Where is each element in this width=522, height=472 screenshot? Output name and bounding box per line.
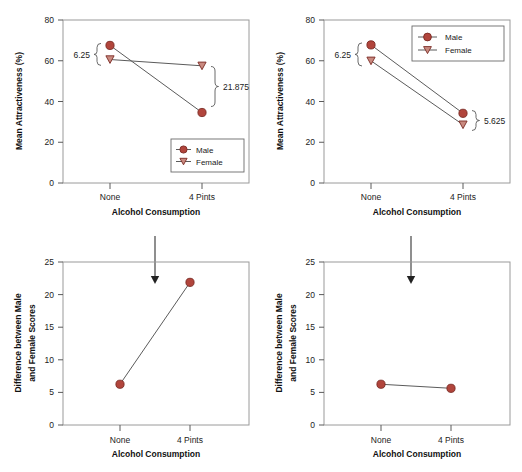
down-arrow-icon [151,236,159,284]
x-tick-label-none: None [361,192,382,202]
y-axis-title-line1: Difference between Male [274,293,284,392]
y-tick-label: 10 [306,355,316,365]
y-tick-label: 0 [49,178,54,188]
y-tick-label: 40 [45,97,55,107]
legend-label-male: Male [445,33,463,42]
x-axis-title: Alcohol Consumption [112,207,200,217]
x-axis-ticks [371,183,463,189]
y-tick-label: 20 [45,137,55,147]
data-point-male-4pints[interactable] [459,109,467,117]
series-line-male [110,45,202,112]
brace-left [355,43,362,66]
x-axis-ticks [381,425,451,431]
annotation-6-25: 6.25 [73,50,90,60]
chart-top-left: 0 20 40 60 80 None 4 Pints Alcohol Consu… [0,0,261,236]
y-axis-ticks [319,20,324,183]
y-tick-label: 0 [310,420,315,430]
legend[interactable]: Male Female [412,26,504,61]
y-axis-title-line2: and Female Scores [288,304,298,382]
series-line-female [110,60,202,66]
y-tick-label: 15 [45,322,55,332]
x-axis-title: Alcohol Consumption [373,207,461,217]
y-axis-title: Mean Attractiveness (%) [14,52,24,150]
y-tick-label: 0 [49,420,54,430]
y-tick-label: 25 [306,257,316,267]
chart-panel-top-left: 0 20 40 60 80 None 4 Pints Alcohol Consu… [0,0,261,236]
down-arrow-icon [407,236,415,284]
data-point-female-4pints[interactable] [459,121,467,129]
y-tick-label: 60 [306,56,316,66]
x-tick-label-none: None [100,192,121,202]
x-tick-label-4-pints: 4 Pints [177,435,203,445]
y-tick-label: 10 [45,355,55,365]
legend[interactable]: Male Female [171,139,244,172]
brace-right [211,67,219,107]
x-axis-ticks [110,183,202,189]
series-line-difference [120,282,190,384]
plot-frame [324,262,510,425]
y-axis-ticks [58,262,63,425]
series-line-female [371,61,463,125]
y-tick-label: 80 [45,15,55,25]
x-tick-label-4-pints: 4 Pints [438,435,464,445]
y-tick-label: 25 [45,257,55,267]
x-tick-label-4-pints: 4 Pints [189,192,215,202]
x-axis-title: Alcohol Consumption [373,449,461,459]
x-tick-label-none: None [371,435,392,445]
y-tick-label: 5 [310,387,315,397]
data-point-difference-none[interactable] [116,380,124,388]
y-tick-label: 20 [306,137,316,147]
x-tick-label-4-pints: 4 Pints [450,192,476,202]
plot-frame [63,262,249,425]
data-point-male-4pints[interactable] [198,108,206,116]
x-axis-title: Alcohol Consumption [112,449,200,459]
data-point-difference-none[interactable] [377,380,385,388]
series-line-difference [381,384,451,388]
chart-bottom-left: 0 5 10 15 20 25 None 4 Pints Alcohol Con… [0,236,261,472]
y-tick-label: 0 [310,178,315,188]
y-axis-ticks [319,262,324,425]
y-tick-label: 20 [306,290,316,300]
y-axis-title-line1: Difference between Male [13,293,23,392]
annotation-21-875: 21.875 [223,82,249,92]
y-tick-label: 60 [45,56,55,66]
legend-label-female: Female [445,46,472,55]
data-point-difference-4pints[interactable] [186,278,194,286]
chart-top-right: 0 20 40 60 80 None 4 Pints Alcohol Consu… [261,0,522,236]
chart-bottom-right: 0 5 10 15 20 25 None 4 Pints Alcohol Con… [261,236,522,472]
data-point-male-none[interactable] [367,41,375,49]
y-tick-label: 20 [45,290,55,300]
data-point-male-none[interactable] [106,41,114,49]
legend-label-female: Female [196,158,223,167]
brace-left [94,43,101,65]
data-point-difference-4pints[interactable] [447,384,455,392]
y-tick-label: 5 [49,387,54,397]
x-axis-ticks [120,425,190,431]
y-axis-title: Mean Attractiveness (%) [275,52,285,150]
chart-panel-bottom-right: 0 5 10 15 20 25 None 4 Pints Alcohol Con… [261,236,522,472]
y-tick-label: 15 [306,322,316,332]
y-tick-label: 80 [306,15,316,25]
chart-panel-top-right: 0 20 40 60 80 None 4 Pints Alcohol Consu… [261,0,522,236]
brace-right [472,111,480,131]
chart-panel-bottom-left: 0 5 10 15 20 25 None 4 Pints Alcohol Con… [0,236,261,472]
figure-grid: 0 20 40 60 80 None 4 Pints Alcohol Consu… [0,0,522,472]
y-axis-ticks [58,20,63,183]
y-tick-label: 40 [306,97,316,107]
y-axis-title-line2: and Female Scores [27,304,37,382]
legend-label-male: Male [196,146,214,155]
data-point-female-none[interactable] [367,57,375,65]
x-tick-label-none: None [110,435,131,445]
annotation-5-625: 5.625 [484,116,506,126]
annotation-6-25: 6.25 [334,50,351,60]
